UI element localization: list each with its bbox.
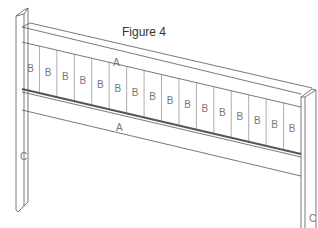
rail-label-lower: A xyxy=(116,122,123,133)
slat-label: B xyxy=(97,79,104,90)
slat-label: B xyxy=(132,87,139,98)
slat-label: B xyxy=(271,119,278,130)
slat-label: B xyxy=(167,95,174,106)
post-label-right: C xyxy=(309,213,316,224)
rail-label-top: A xyxy=(113,57,120,68)
figure-caption: Figure 4 xyxy=(122,25,166,39)
slat-label: B xyxy=(45,67,52,78)
slat-label: B xyxy=(236,111,243,122)
slat-label: B xyxy=(184,99,191,110)
slat-label: B xyxy=(80,75,87,86)
slat-label: B xyxy=(149,91,156,102)
right-post: C xyxy=(301,89,316,228)
slat-label: B xyxy=(219,107,226,118)
post-label-left: C xyxy=(20,151,27,162)
slats: BBBBBBBBBBBBBBBB xyxy=(27,46,296,150)
slat-label: B xyxy=(114,83,121,94)
headboard-assembly-diagram: Figure 4 C C A BBBBBBBBBBBBBBBB xyxy=(0,0,318,228)
slat-label: B xyxy=(254,115,261,126)
slat-label: B xyxy=(62,71,69,82)
slat-label: B xyxy=(27,63,34,74)
slat-label: B xyxy=(289,123,296,134)
slat-label: B xyxy=(202,103,209,114)
